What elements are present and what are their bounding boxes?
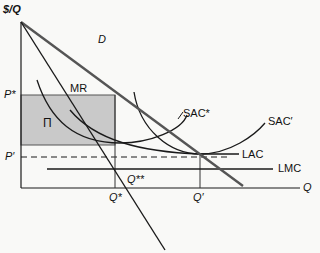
monopoly-cost-diagram: $/Q Q D MR SAC* SAC′ LAC LMC P* P′ Q* Q*… [0,0,320,253]
sac-prime-curve [134,92,265,154]
sac-prime-label: SAC′ [268,116,293,127]
q-double-star-label: Q** [127,174,144,185]
p-star-label: P* [4,89,16,100]
x-axis-label: Q [303,182,312,193]
demand-label: D [98,34,106,45]
q-star-label: Q* [109,192,122,203]
p-prime-label: P′ [5,151,14,162]
profit-area [21,95,115,145]
mr-label: MR [70,83,87,94]
lmc-label: LMC [278,163,301,174]
lac-label: LAC [242,149,263,160]
profit-label: Π [43,117,52,129]
sac-star-label: SAC* [183,108,210,119]
q-prime-label: Q′ [193,192,204,203]
y-axis-label: $/Q [3,4,21,15]
